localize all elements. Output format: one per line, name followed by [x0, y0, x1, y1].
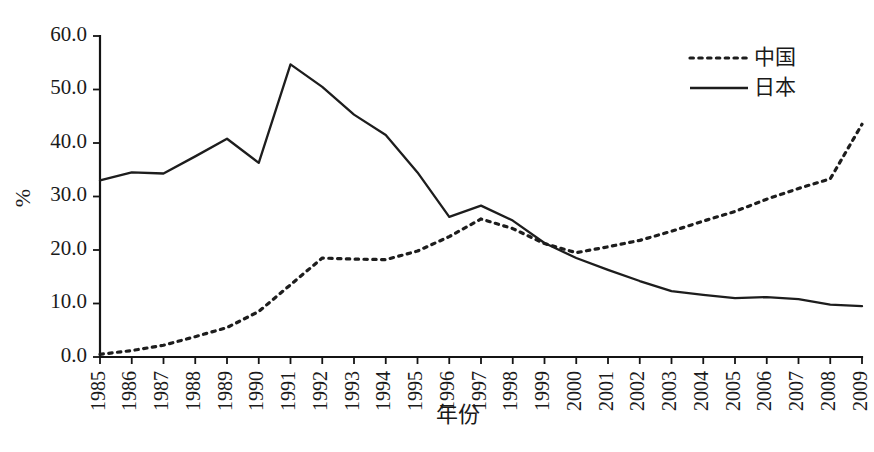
x-tick-label: 2001	[595, 371, 617, 411]
x-tick-label: 1990	[245, 371, 267, 411]
x-tick-label: 2006	[753, 371, 775, 411]
x-tick-label: 1994	[372, 371, 394, 411]
x-tick-label: 2000	[563, 371, 585, 411]
x-tick-label: 1993	[341, 371, 363, 411]
y-tick-label: 20.0	[50, 236, 87, 260]
x-tick-label: 1995	[404, 371, 426, 411]
x-tick-label: 1989	[214, 371, 236, 411]
x-tick-label: 1992	[309, 371, 331, 411]
line-chart-figure: 0.010.020.030.040.050.060.0 198519861987…	[0, 0, 874, 452]
y-tick-label: 50.0	[50, 75, 87, 99]
x-tick-label: 2009	[849, 371, 871, 411]
x-tick-label: 2008	[817, 371, 839, 411]
x-tick-label: 2004	[690, 371, 712, 411]
x-tick-label: 2003	[658, 371, 680, 411]
y-tick-label: 60.0	[50, 22, 87, 46]
x-tick-label: 1998	[499, 371, 521, 411]
y-axis-title: %	[10, 189, 35, 207]
x-tick-label: 2002	[626, 371, 648, 411]
x-tick-label: 2005	[722, 371, 744, 411]
y-tick-label: 10.0	[50, 289, 87, 313]
x-tick-label: 1988	[182, 371, 204, 411]
legend-label-china: 中国	[754, 45, 796, 69]
data-series	[100, 64, 862, 354]
y-tick-label: 0.0	[61, 343, 87, 367]
y-axis	[93, 36, 100, 357]
series-line-japan	[100, 64, 862, 306]
x-tick-label: 1985	[87, 371, 109, 411]
x-tick-label: 1987	[150, 371, 172, 411]
chart-canvas: 0.010.020.030.040.050.060.0 198519861987…	[0, 0, 874, 452]
legend-label-japan: 日本	[754, 75, 796, 99]
x-tick-label: 1999	[531, 371, 553, 411]
x-axis-title: 年份	[436, 402, 480, 427]
chart-legend: 中国日本	[690, 45, 796, 99]
series-line-china	[100, 124, 862, 354]
x-axis	[100, 357, 862, 364]
y-tick-labels: 0.010.020.030.040.050.060.0	[50, 22, 87, 367]
x-tick-label: 1986	[118, 371, 140, 411]
y-tick-label: 40.0	[50, 129, 87, 153]
y-tick-label: 30.0	[50, 182, 87, 206]
x-tick-label: 1991	[277, 371, 299, 411]
x-tick-label: 2007	[785, 371, 807, 411]
